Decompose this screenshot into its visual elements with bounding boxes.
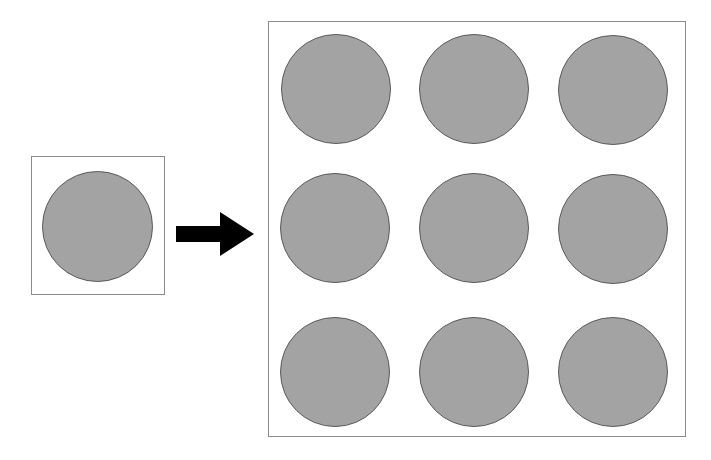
grid-disc-4 — [280, 173, 390, 283]
grid-disc-2 — [419, 34, 529, 144]
grid-disc-6 — [558, 174, 668, 284]
right-arrow-icon — [176, 210, 254, 258]
grid-disc-5 — [419, 173, 529, 283]
arrow-glyph — [176, 212, 254, 256]
grid-disc-8 — [419, 317, 529, 427]
grid-disc-3 — [558, 35, 668, 145]
unit-cell-disc-1 — [42, 171, 153, 282]
grid-disc-1 — [281, 34, 391, 144]
grid-disc-7 — [280, 317, 390, 427]
diagram-canvas — [0, 0, 711, 460]
grid-disc-9 — [558, 317, 668, 427]
